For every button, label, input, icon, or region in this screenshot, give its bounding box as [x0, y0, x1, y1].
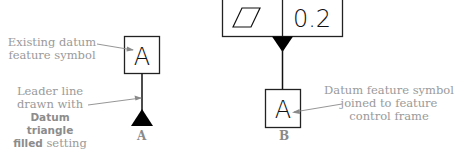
arrow-leader-line [88, 98, 141, 105]
note-existing-datum: Existing datum feature symbol [6, 36, 98, 62]
note-joined-line3: control frame [322, 110, 456, 123]
fcf-tolerance: 0.2 [293, 5, 331, 33]
datum-triangle-filled [131, 109, 153, 126]
note-leader-tail: setting [43, 136, 87, 150]
datum-letter-b: A [275, 96, 291, 124]
caption-b: B [279, 129, 289, 143]
note-existing-datum-line2: feature symbol [6, 49, 98, 62]
caption-a: A [137, 129, 146, 143]
arrowhead-leader-line [135, 96, 143, 101]
note-leader-bold1: Datum triangle [27, 111, 74, 136]
datum-letter-a: A [134, 43, 150, 71]
datum-triangle-joined [272, 37, 293, 53]
note-leader-bold2: filled [13, 137, 43, 149]
note-joined: Datum feature symbol joined to feature c… [322, 84, 456, 123]
note-leader-line2: drawn with [10, 98, 90, 111]
note-leader-line: Leader line drawn with Datum triangle fi… [10, 85, 90, 150]
